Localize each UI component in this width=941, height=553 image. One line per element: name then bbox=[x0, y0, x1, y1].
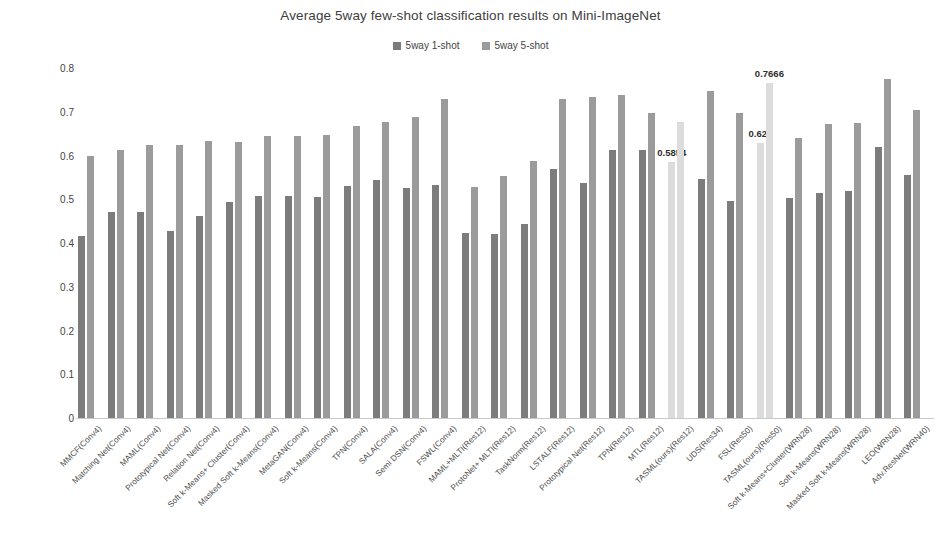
bar[interactable] bbox=[816, 193, 823, 418]
bar[interactable] bbox=[913, 110, 920, 418]
bar[interactable] bbox=[580, 183, 587, 418]
bar[interactable] bbox=[825, 124, 832, 418]
bar[interactable] bbox=[500, 176, 507, 418]
bar[interactable] bbox=[344, 186, 351, 418]
bar[interactable] bbox=[117, 150, 124, 418]
bar[interactable] bbox=[462, 233, 469, 418]
bar-group bbox=[224, 68, 254, 418]
bar-group bbox=[106, 68, 136, 418]
bar[interactable] bbox=[432, 185, 439, 418]
bar[interactable] bbox=[226, 202, 233, 418]
x-axis-baseline bbox=[76, 418, 934, 419]
bar[interactable] bbox=[736, 113, 743, 418]
bar[interactable] bbox=[323, 135, 330, 419]
bar[interactable] bbox=[530, 161, 537, 418]
bar[interactable] bbox=[205, 141, 212, 418]
plot-area: 0.58540.6280.7666 bbox=[76, 68, 932, 418]
bar[interactable] bbox=[264, 136, 271, 418]
y-tick-label: 0.7 bbox=[40, 106, 74, 117]
legend-item[interactable]: 5way 1-shot bbox=[393, 40, 460, 51]
bar[interactable] bbox=[403, 188, 410, 418]
y-tick-label: 0.4 bbox=[40, 238, 74, 249]
bar-group bbox=[489, 68, 519, 418]
bar[interactable] bbox=[648, 113, 655, 418]
x-tick-label: MAML+MLTI(Res12) bbox=[427, 424, 487, 484]
bar[interactable] bbox=[757, 143, 764, 418]
bar-group bbox=[637, 68, 667, 418]
bar-group bbox=[371, 68, 401, 418]
bar-value-label: 0.7666 bbox=[755, 68, 784, 79]
bar[interactable] bbox=[255, 196, 262, 418]
bar[interactable] bbox=[373, 180, 380, 418]
bar[interactable] bbox=[137, 212, 144, 418]
bar[interactable] bbox=[677, 122, 684, 418]
y-axis: 00.10.20.30.40.50.60.70.8 bbox=[40, 68, 74, 418]
bar[interactable] bbox=[412, 117, 419, 418]
bar[interactable] bbox=[639, 150, 646, 418]
bar[interactable] bbox=[698, 179, 705, 418]
bar[interactable] bbox=[167, 231, 174, 418]
bar[interactable] bbox=[707, 91, 714, 418]
bar[interactable] bbox=[521, 224, 528, 418]
bar-group bbox=[194, 68, 224, 418]
bar-group bbox=[430, 68, 460, 418]
bar[interactable] bbox=[441, 99, 448, 418]
bar[interactable] bbox=[235, 142, 242, 419]
bar[interactable] bbox=[285, 196, 292, 418]
bar[interactable] bbox=[87, 156, 94, 419]
bar-group bbox=[784, 68, 814, 418]
legend-label: 5way 5-shot bbox=[495, 40, 549, 51]
bar-group bbox=[165, 68, 195, 418]
bar[interactable] bbox=[668, 162, 675, 418]
bar[interactable] bbox=[146, 145, 153, 418]
x-tick-label: Relation Net(Conv4) bbox=[162, 424, 221, 483]
legend-item[interactable]: 5way 5-shot bbox=[482, 40, 549, 51]
bar[interactable] bbox=[786, 198, 793, 418]
bar-group bbox=[814, 68, 844, 418]
bar-group bbox=[76, 68, 106, 418]
bar-group bbox=[401, 68, 431, 418]
bar[interactable] bbox=[78, 236, 85, 418]
y-tick-label: 0.1 bbox=[40, 369, 74, 380]
bar[interactable] bbox=[559, 99, 566, 418]
bar[interactable] bbox=[491, 234, 498, 418]
bar[interactable] bbox=[884, 79, 891, 418]
bar[interactable] bbox=[609, 150, 616, 418]
bar[interactable] bbox=[845, 191, 852, 419]
bar[interactable] bbox=[176, 145, 183, 418]
bar-group bbox=[725, 68, 755, 418]
bar[interactable] bbox=[618, 95, 625, 418]
y-tick-label: 0.8 bbox=[40, 63, 74, 74]
y-tick-label: 0.2 bbox=[40, 325, 74, 336]
bar-group bbox=[696, 68, 726, 418]
bar-group bbox=[578, 68, 608, 418]
bar[interactable] bbox=[471, 187, 478, 418]
bar[interactable] bbox=[875, 147, 882, 418]
bar[interactable] bbox=[766, 83, 773, 418]
bar[interactable] bbox=[854, 123, 861, 418]
bar[interactable] bbox=[550, 169, 557, 418]
bar-group bbox=[312, 68, 342, 418]
bar-group: 0.6280.7666 bbox=[755, 68, 785, 418]
bar[interactable] bbox=[589, 97, 596, 418]
bar-group bbox=[902, 68, 932, 418]
bar[interactable] bbox=[196, 216, 203, 418]
bar[interactable] bbox=[353, 126, 360, 418]
x-axis-labels: MMCF(Conv4)Matching Net(Conv4)MAML(Conv4… bbox=[76, 420, 934, 553]
bar-group bbox=[607, 68, 637, 418]
y-tick-label: 0 bbox=[40, 413, 74, 424]
bar-group bbox=[843, 68, 873, 418]
legend-label: 5way 1-shot bbox=[406, 40, 460, 51]
bar[interactable] bbox=[795, 138, 802, 418]
bar[interactable] bbox=[314, 197, 321, 418]
y-tick-label: 0.6 bbox=[40, 150, 74, 161]
bar[interactable] bbox=[904, 175, 911, 418]
bar[interactable] bbox=[382, 122, 389, 418]
bar[interactable] bbox=[727, 201, 734, 418]
bar[interactable] bbox=[294, 136, 301, 418]
x-tick-label: Adv.ResNet(WRN40) bbox=[870, 424, 932, 486]
bar[interactable] bbox=[108, 212, 115, 418]
legend-swatch-icon bbox=[393, 42, 401, 50]
chart-container: Average 5way few-shot classification res… bbox=[0, 0, 941, 553]
bar-group bbox=[460, 68, 490, 418]
